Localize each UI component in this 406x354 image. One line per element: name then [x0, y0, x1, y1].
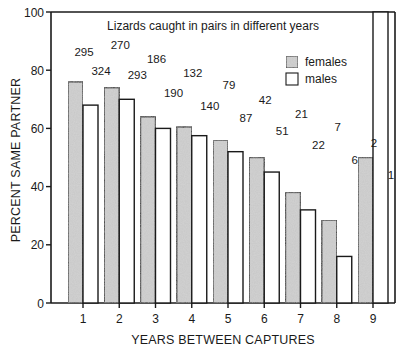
y-axis-label: PERCENT SAME PARTNER: [9, 78, 23, 242]
bar-females-year-7: [286, 192, 301, 303]
legend-label-males: males: [305, 72, 337, 86]
x-tick-label: 5: [225, 312, 232, 326]
count-label-males: 22: [312, 139, 325, 151]
x-ticks: 123456789: [80, 303, 377, 326]
chart-title: Lizards caught in pairs in different yea…: [107, 19, 319, 33]
count-label-females: 21: [295, 108, 308, 120]
legend-label-females: females: [305, 55, 347, 69]
x-tick-label: 6: [261, 312, 268, 326]
bar-females-year-3: [141, 117, 156, 303]
x-tick-label: 7: [297, 312, 304, 326]
count-label-females: 2: [371, 137, 377, 149]
count-label-females: 42: [259, 94, 272, 106]
bar-males-year-6: [264, 172, 279, 303]
count-label-males: 51: [276, 125, 289, 137]
x-tick-label: 3: [152, 312, 159, 326]
bar-males-year-2: [119, 99, 134, 303]
x-tick-label: 2: [116, 312, 123, 326]
bar-males-year-1: [83, 105, 98, 303]
count-label-females: 132: [183, 67, 202, 79]
legend: females males: [286, 55, 347, 86]
y-tick-label: 100: [24, 6, 44, 20]
bar-females-year-4: [177, 127, 192, 303]
bar-males-year-5: [228, 152, 243, 303]
chart: 020406080100 123456789 29532427029318619…: [0, 0, 406, 354]
legend-swatch-males: [286, 73, 298, 85]
bar-males-year-3: [156, 128, 171, 303]
count-label-females: 295: [74, 46, 93, 58]
count-label-males: 140: [200, 100, 219, 112]
x-tick-label: 1: [80, 312, 87, 326]
bar-females-year-8: [322, 220, 337, 303]
count-label-females: 186: [147, 53, 166, 65]
y-tick-label: 20: [31, 238, 45, 252]
bar-females-year-9: [358, 158, 373, 304]
count-label-males: 324: [91, 65, 111, 77]
count-label-males: 87: [240, 112, 253, 124]
count-label-males: 6: [352, 154, 358, 166]
bar-males-year-7: [301, 210, 316, 303]
x-axis-label: YEARS BETWEEN CAPTURES: [131, 333, 315, 347]
y-ticks: 020406080100: [24, 6, 51, 311]
y-tick-label: 60: [31, 122, 45, 136]
y-tick-label: 0: [37, 297, 44, 311]
x-tick-label: 8: [333, 312, 340, 326]
count-label-females: 7: [335, 121, 341, 133]
count-label-females: 270: [111, 39, 130, 51]
count-label-males: 293: [128, 69, 147, 81]
bar-males-year-4: [192, 136, 207, 303]
bar-females-year-1: [68, 82, 83, 303]
count-label-females: 79: [223, 79, 236, 91]
y-tick-label: 80: [31, 64, 45, 78]
legend-swatch-females: [286, 56, 298, 68]
count-label-males: 190: [164, 87, 183, 99]
x-tick-label: 9: [370, 312, 377, 326]
bar-females-year-5: [213, 140, 228, 303]
bar-males-year-8: [337, 256, 352, 303]
bar-females-year-6: [249, 158, 264, 304]
x-tick-label: 4: [188, 312, 195, 326]
count-label-males: 1: [388, 169, 394, 181]
bar-females-year-2: [104, 88, 119, 303]
bar-males-year-9: [373, 12, 388, 303]
y-tick-label: 40: [31, 180, 45, 194]
